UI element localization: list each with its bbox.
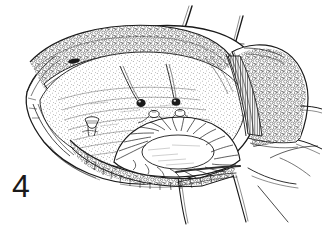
dome-inner-oval (142, 135, 214, 169)
figure-container: 4 (0, 0, 323, 226)
surgical-illustration (0, 0, 323, 226)
figure-number-label: 4 (12, 170, 30, 202)
